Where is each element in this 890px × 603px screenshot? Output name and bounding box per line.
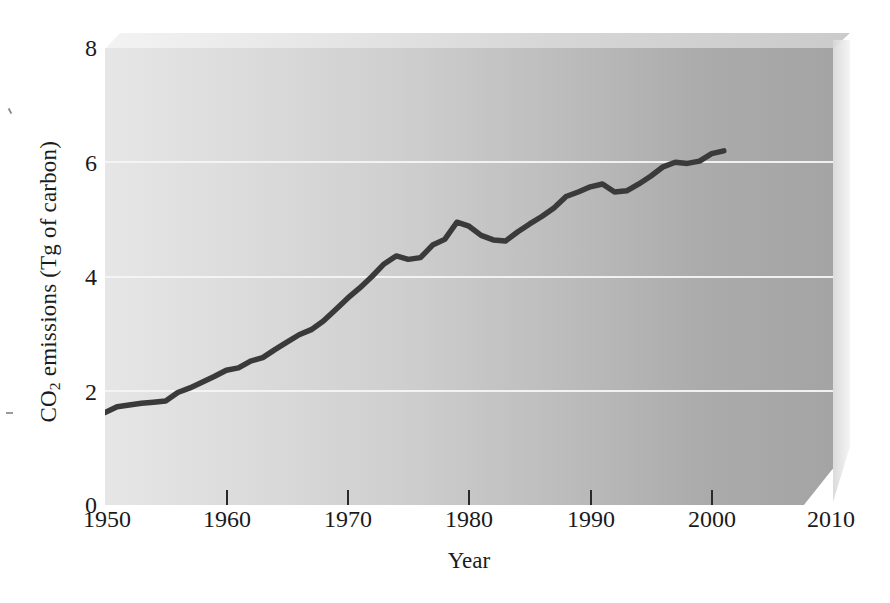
y-tick-label-2: 2 xyxy=(57,380,97,404)
panel-top-bevel xyxy=(105,33,850,49)
y-tick-label-6: 6 xyxy=(57,151,97,175)
y-tick-label-4: 4 xyxy=(57,265,97,289)
scan-artifact-mark-bottom xyxy=(6,412,13,414)
x-tick-label-2010: 2010 xyxy=(771,506,890,532)
x-tick-mark-1960 xyxy=(226,490,228,505)
x-tick-mark-2000 xyxy=(711,490,713,505)
x-tick-label-1990: 1990 xyxy=(531,506,651,532)
x-tick-mark-1980 xyxy=(468,490,470,505)
scan-artifact-mark-top xyxy=(8,108,13,114)
series-line-co2-emissions xyxy=(105,151,724,413)
x-tick-mark-1970 xyxy=(347,490,349,505)
y-tick-label-8: 8 xyxy=(57,36,97,60)
x-tick-label-1970: 1970 xyxy=(288,506,408,532)
x-tick-mark-1990 xyxy=(590,490,592,505)
x-tick-label-1960: 1960 xyxy=(167,506,287,532)
data-line-svg xyxy=(105,48,833,505)
x-tick-label-1950: 1950 xyxy=(47,506,167,532)
x-tick-label-1980: 1980 xyxy=(409,506,529,532)
chart-figure: CO2 emissions (Tg of carbon) 8 6 4 2 0 1… xyxy=(0,0,890,603)
x-tick-label-2000: 2000 xyxy=(652,506,772,532)
panel-right-bevel xyxy=(833,40,850,502)
plot-area xyxy=(105,48,833,505)
x-axis-title: Year xyxy=(105,548,833,574)
